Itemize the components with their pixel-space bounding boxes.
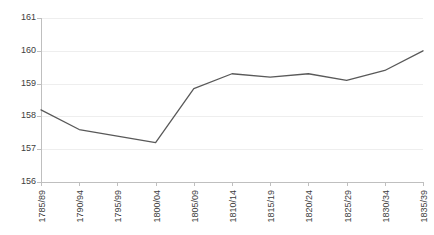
x-tick-label: 1830/34 [381, 190, 391, 223]
x-tick-label: 1810/14 [228, 190, 238, 223]
y-tick-label: 160 [4, 46, 36, 55]
x-tick-label: 1805/09 [190, 190, 200, 223]
y-tick-label: 158 [4, 111, 36, 120]
x-tick-label: 1825/29 [343, 190, 353, 223]
x-tick-mark [423, 182, 424, 186]
x-tick-label: 1795/99 [113, 190, 123, 223]
x-tick-label: 1815/19 [266, 190, 276, 223]
x-tick-label: 1800/04 [152, 190, 162, 223]
series-line-height [41, 51, 423, 143]
line-chart: 156157158159160161 1785/891790/941795/99… [0, 0, 434, 235]
chart-title [0, 0, 434, 7]
y-tick-label: 159 [4, 79, 36, 88]
x-tick-label: 1835/39 [419, 190, 429, 223]
data-series-layer [41, 18, 423, 183]
y-tick-label: 156 [4, 177, 36, 186]
x-tick-label: 1785/89 [37, 190, 47, 223]
y-tick-label: 157 [4, 144, 36, 153]
x-tick-label: 1790/94 [75, 190, 85, 223]
x-tick-label: 1820/24 [304, 190, 314, 223]
y-tick-label: 161 [4, 13, 36, 22]
